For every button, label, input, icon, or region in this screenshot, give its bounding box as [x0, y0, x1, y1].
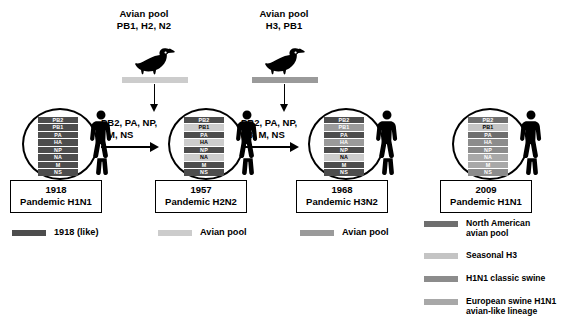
pool-1968-arrow-head: [280, 104, 288, 112]
avian-pool-1957-group: Avian pool PB1, H2, N2: [88, 8, 200, 31]
legend-item-avian-pool-light: Avian pool: [158, 227, 247, 238]
segment-m: M: [184, 162, 224, 168]
segment-na: NA: [38, 154, 78, 160]
gene-segments-1957: PB2 PB1 PA HA NP NA M NS: [184, 117, 224, 177]
segment-label: NP: [324, 147, 364, 153]
segment-ns: NS: [468, 169, 508, 175]
strain-year: 1918: [15, 184, 97, 196]
segment-label: PB1: [38, 124, 78, 130]
segment-label: PB2: [184, 117, 224, 123]
legend-swatch: [424, 253, 458, 259]
arrow-label-line2: M, NS: [107, 129, 171, 141]
duck-icon: [134, 46, 178, 80]
legend-label: H1N1 classic swine: [466, 273, 545, 283]
reassortment-arrow-1918-to-1957: PB2, PA, NP, M, NS: [101, 117, 171, 140]
segment-np: NP: [324, 147, 364, 153]
strain-year: 2009: [445, 184, 527, 196]
segment-pb2: PB2: [38, 117, 78, 123]
segment-label: NP: [468, 147, 508, 153]
virion-2009: PB2 PB1 PA HA NP NA M NS: [452, 108, 544, 188]
legend-swatch: [424, 221, 458, 227]
segment-label: PB2: [324, 117, 364, 123]
strain-name: Pandemic H2N2: [160, 196, 242, 208]
segment-label: HA: [324, 139, 364, 145]
duck-icon: [264, 46, 308, 80]
avian-pool-1957-bar: [122, 77, 188, 83]
legend-swatch: [424, 299, 458, 305]
human-host-icon: [374, 110, 400, 176]
segment-na: NA: [184, 154, 224, 160]
legend-item-h1n1-classic-swine: H1N1 classic swine: [424, 273, 563, 283]
legend-item-1918-like: 1918 (like): [12, 227, 98, 238]
segment-label: M: [184, 162, 224, 168]
segment-label: PA: [184, 132, 224, 138]
reassortment-arrow-1957-to-1968: PB2, PA, NP, N3, M, NS: [241, 117, 313, 140]
segment-label: PA: [324, 132, 364, 138]
legend-label: 1918 (like): [54, 227, 98, 238]
gene-segments-1918: PB2 PB1 PA HA NP NA M NS: [38, 117, 78, 177]
segment-label: M: [324, 162, 364, 168]
gene-segments-1968: PB2 PB1 PA HA NP NA M NS: [324, 117, 364, 177]
segment-label: HA: [184, 139, 224, 145]
segment-np: NP: [468, 147, 508, 153]
arrow-1918-1957-head: [150, 142, 159, 152]
segment-label: NA: [184, 154, 224, 160]
segment-label: NS: [38, 169, 78, 175]
legend-label: Avian pool: [342, 227, 389, 238]
segment-pb2: PB2: [468, 117, 508, 123]
segment-pb1: PB1: [468, 124, 508, 130]
avian-pool-1968-label-line2: H3, PB1: [228, 20, 340, 32]
segment-label: PB1: [184, 124, 224, 130]
segment-label: NS: [324, 169, 364, 175]
segment-pa: PA: [468, 132, 508, 138]
strain-caption-1918: 1918 Pandemic H1N1: [10, 180, 102, 213]
avian-pool-1957-label-line1: Avian pool: [88, 8, 200, 20]
legend-item-avian-pool-mid: Avian pool: [300, 227, 389, 238]
strain-year: 1968: [301, 184, 383, 196]
arrow-1918-1957-line: [101, 146, 151, 148]
segment-pb1: PB1: [184, 124, 224, 130]
arrow-1957-1968-line: [241, 146, 291, 148]
legend-swatch: [300, 230, 334, 236]
segment-np: NP: [184, 147, 224, 153]
legend-label: North American avian pool: [466, 218, 530, 238]
avian-pool-1957-label-line2: PB1, H2, N2: [88, 20, 200, 32]
segment-pa: PA: [38, 132, 78, 138]
segment-ha: HA: [184, 139, 224, 145]
segment-pb2: PB2: [324, 117, 364, 123]
segment-m: M: [468, 162, 508, 168]
legend-item-seasonal-h3: Seasonal H3: [424, 250, 563, 260]
segment-pa: PA: [324, 132, 364, 138]
segment-ha: HA: [38, 139, 78, 145]
pool-1957-arrow-line: [154, 84, 155, 106]
segment-pb1: PB1: [324, 124, 364, 130]
segment-label: PB1: [468, 124, 508, 130]
segment-pa: PA: [184, 132, 224, 138]
legend-swatch: [158, 230, 192, 236]
legend-label: Avian pool: [200, 227, 247, 238]
avian-pool-1968-bar: [252, 77, 318, 83]
legend-item-european-swine: European swine H1N1 avian-like lineage: [424, 296, 563, 316]
segment-label: PB2: [468, 117, 508, 123]
segment-label: NS: [184, 169, 224, 175]
segment-label: NA: [468, 154, 508, 160]
segment-label: PA: [38, 132, 78, 138]
strain-caption-1968: 1968 Pandemic H3N2: [296, 180, 388, 213]
pool-1957-arrow-head: [150, 104, 158, 112]
arrow-label-line1: PB2, PA, NP,: [101, 117, 171, 129]
segment-na: NA: [468, 154, 508, 160]
strain-name: Pandemic H3N2: [301, 196, 383, 208]
strain-year: 1957: [160, 184, 242, 196]
segment-np: NP: [38, 147, 78, 153]
avian-pool-1968-label-line1: Avian pool: [228, 8, 340, 20]
segment-label: M: [468, 162, 508, 168]
segment-ns: NS: [324, 169, 364, 175]
segment-label: HA: [468, 139, 508, 145]
segment-na: NA: [324, 154, 364, 160]
avian-pool-1968-group: Avian pool H3, PB1: [228, 8, 340, 31]
influenza-reassortment-figure: Avian pool PB1, H2, N2 Avian pool H3, PB…: [0, 0, 563, 326]
segment-pb1: PB1: [38, 124, 78, 130]
segment-label: NP: [184, 147, 224, 153]
segment-label: HA: [38, 139, 78, 145]
segment-label: PB2: [38, 117, 78, 123]
